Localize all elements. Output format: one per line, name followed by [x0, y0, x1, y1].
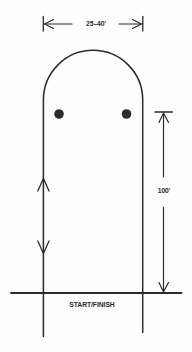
- start-finish-label: START/FINISH: [69, 300, 114, 309]
- course-diagram: 25–40' 100' START/FINISH: [0, 0, 192, 352]
- marker-dot-left: [54, 109, 64, 119]
- marker-dot-right: [122, 109, 132, 119]
- length-dimension-label: 100': [158, 186, 171, 195]
- length-dimension: [155, 112, 173, 292]
- width-dimension-label: 25–40': [85, 19, 105, 28]
